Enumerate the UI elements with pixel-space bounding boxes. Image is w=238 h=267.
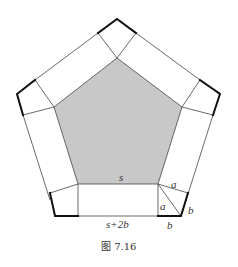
pentagon-diagram: s s+2b a a b b 图 7.16 bbox=[0, 0, 238, 267]
label-s: s bbox=[119, 171, 123, 183]
label-a-left: a bbox=[160, 200, 166, 212]
label-b-right: b bbox=[188, 204, 194, 216]
label-a-top: a bbox=[171, 178, 177, 190]
label-b-bottom: b bbox=[167, 219, 173, 231]
inner-pentagon bbox=[54, 58, 182, 184]
figure-caption: 图 7.16 bbox=[101, 241, 136, 252]
label-s-plus-2b: s+2b bbox=[106, 218, 129, 230]
